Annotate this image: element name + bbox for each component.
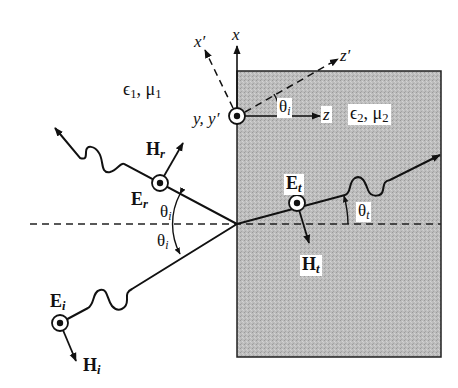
medium2-region [237,71,441,357]
ei-label: Ei [50,292,66,313]
hi-label: Hi [83,356,101,377]
transmitted-angle-label: θt [356,202,371,222]
x-axis-label: x [232,26,240,43]
x-prime-axis [205,50,233,108]
x-prime-axis-label: x′ [194,33,205,50]
et-label: Et [284,174,304,195]
incident-ray [60,224,237,323]
incident-angle-label: θi [157,232,168,252]
medium1-label: ϵ1, μ1 [123,80,162,101]
hr-label: Hr [146,140,165,161]
diagram-canvas: x x′ z′ z y, y′ θi ϵ1, μ1 ϵ2, μ2 Hr Er E… [0,0,458,388]
z-axis-label: z [321,106,332,123]
z-prime-axis-label: z′ [340,47,350,64]
medium2-label: ϵ2, μ2 [348,104,391,125]
reflected-angle-label: θi [160,203,171,223]
diagram-svg [0,0,458,388]
er-label: Er [131,190,148,211]
ht-label: Ht [300,255,322,276]
rotation-angle-label: θi [277,98,292,118]
y-axis-label: y, y′ [193,110,219,127]
